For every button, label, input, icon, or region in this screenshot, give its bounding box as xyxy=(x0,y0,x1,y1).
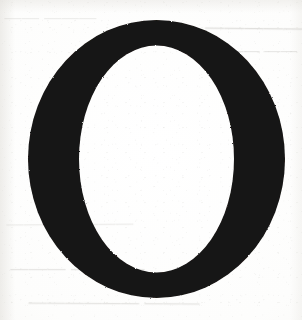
dropcap-letter-o xyxy=(0,0,302,320)
dropcap-ink-body xyxy=(0,0,302,320)
dropcap-glyph-svg xyxy=(0,0,302,320)
scanned-page: ——— —— —————— —— ——— ——— ———— ———— ——— —… xyxy=(0,0,302,320)
